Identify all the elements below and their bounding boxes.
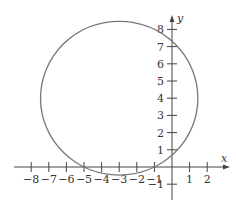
y-tick-label: 2 xyxy=(157,127,164,140)
y-tick-label: 3 xyxy=(157,109,164,122)
x-axis-arrow-icon xyxy=(223,165,230,170)
y-tick-label: 5 xyxy=(157,75,164,88)
y-tick-label: 7 xyxy=(157,41,164,54)
x-tick-label: −4 xyxy=(93,173,109,186)
x-tick-label: 1 xyxy=(186,173,193,186)
x-tick-label: 2 xyxy=(204,173,211,186)
circle-graph: xy−8−7−6−5−4−3−2−112−112345678 xyxy=(0,0,236,207)
x-axis-label: x xyxy=(221,152,228,165)
y-axis-label: y xyxy=(176,12,184,25)
x-tick-label: −6 xyxy=(58,173,74,186)
y-tick-label: 4 xyxy=(157,92,164,105)
x-tick-label: −8 xyxy=(23,173,39,186)
y-tick-label: 1 xyxy=(157,144,164,157)
x-tick-label: −2 xyxy=(129,173,145,186)
x-tick-label: −5 xyxy=(76,173,92,186)
x-tick-label: −7 xyxy=(41,173,57,186)
y-tick-label: −1 xyxy=(148,178,164,191)
y-axis-arrow-icon xyxy=(170,15,175,22)
y-tick-label: 6 xyxy=(157,58,164,71)
